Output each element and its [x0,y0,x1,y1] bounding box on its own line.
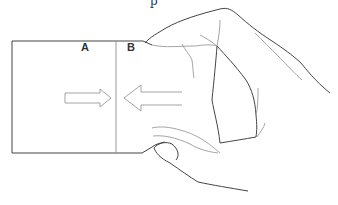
card [12,41,152,153]
hand [145,8,330,191]
arrow-left-icon [124,85,182,111]
hand-detail-lines [152,20,302,153]
illustration: p [0,0,338,205]
label-half-b: B [127,41,135,53]
cropped-caption-text: p [150,0,158,8]
label-half-a: A [81,41,89,53]
hand-card-drawing [0,0,338,205]
arrow-right-icon [65,89,111,107]
